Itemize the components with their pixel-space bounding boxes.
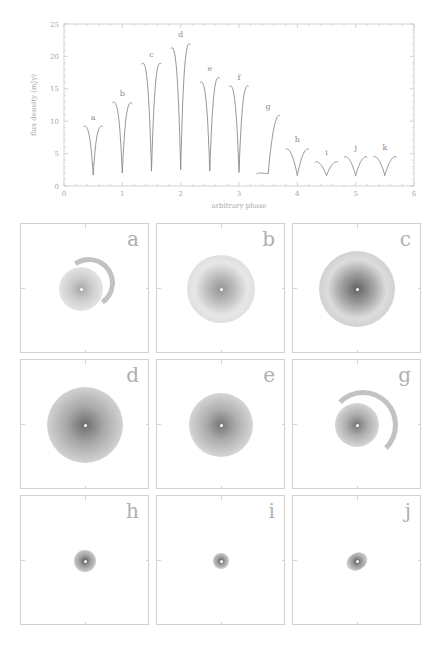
- dip-label-g: g: [266, 102, 271, 111]
- panel-label: g: [398, 365, 411, 385]
- panel-tick: [85, 622, 86, 625]
- panel-label: d: [126, 365, 139, 385]
- image-panel-j: j: [292, 495, 421, 625]
- panel-label: c: [400, 229, 411, 249]
- dip-label-d: d: [178, 30, 183, 39]
- dip-label-i: i: [325, 148, 328, 157]
- x-tick-label: 3: [237, 190, 241, 198]
- panel-tick: [418, 560, 421, 561]
- image-panel-g: g: [292, 359, 421, 489]
- core-point: [356, 288, 359, 291]
- dip-label-k: k: [382, 143, 387, 152]
- panel-tick: [293, 288, 297, 289]
- image-panel-c: c: [292, 223, 421, 353]
- chart-canvas: 01234560510152025arbitrary phaseflux den…: [0, 0, 442, 215]
- panel-tick: [85, 350, 86, 353]
- panel-label: h: [126, 501, 139, 521]
- panel-tick: [357, 496, 358, 500]
- core-point: [84, 424, 87, 427]
- dip-label-h: h: [295, 135, 300, 144]
- dip-curve-d: [171, 44, 191, 170]
- y-tick-label: 15: [50, 85, 59, 93]
- x-tick-label: 6: [412, 190, 417, 198]
- dip-curve-a: [83, 126, 103, 175]
- y-tick-label: 10: [50, 118, 59, 126]
- panel-tick: [221, 224, 222, 228]
- flux-density-chart: 01234560510152025arbitrary phaseflux den…: [0, 0, 442, 215]
- panel-tick: [282, 560, 285, 561]
- dip-curve-j: [344, 157, 367, 176]
- image-panel-e: e: [156, 359, 285, 489]
- panel-tick: [157, 560, 161, 561]
- panel-label: a: [127, 229, 139, 249]
- y-tick-label: 25: [50, 21, 59, 29]
- panel-tick: [221, 486, 222, 489]
- image-panel-grid: a b c d e g h i j: [20, 223, 421, 632]
- panel-tick: [357, 350, 358, 353]
- panel-label: b: [262, 229, 275, 249]
- dip-label-a: a: [91, 113, 96, 122]
- panel-tick: [21, 424, 25, 425]
- dip-curve-f: [229, 86, 249, 173]
- panel-tick: [357, 224, 358, 228]
- dip-curve-g: [257, 116, 280, 175]
- y-tick-label: 0: [55, 183, 59, 191]
- core-point: [84, 560, 87, 563]
- image-panel-a: a: [20, 223, 149, 353]
- core-point: [356, 560, 359, 563]
- dip-curve-h: [286, 149, 309, 176]
- image-panel-i: i: [156, 495, 285, 625]
- panel-tick: [85, 486, 86, 489]
- dip-label-b: b: [120, 89, 125, 98]
- panel-tick: [21, 560, 25, 561]
- panel-tick: [293, 560, 297, 561]
- panel-label: j: [405, 501, 411, 521]
- panel-tick: [282, 288, 285, 289]
- dip-label-f: f: [238, 73, 242, 82]
- dip-curve-e: [200, 77, 220, 171]
- dip-curve-c: [142, 63, 162, 171]
- panel-tick: [357, 360, 358, 364]
- dip-label-c: c: [149, 50, 154, 59]
- panel-tick: [85, 360, 86, 364]
- dip-label-j: j: [353, 143, 356, 152]
- y-tick-label: 5: [55, 150, 59, 158]
- core-point: [220, 424, 223, 427]
- x-tick-label: 1: [120, 190, 124, 198]
- panel-tick: [146, 288, 149, 289]
- panel-tick: [157, 424, 161, 425]
- x-axis-label: arbitrary phase: [212, 202, 267, 210]
- panel-tick: [221, 496, 222, 500]
- panel-label: i: [269, 501, 275, 521]
- image-panel-b: b: [156, 223, 285, 353]
- panel-tick: [293, 424, 297, 425]
- x-tick-label: 0: [62, 190, 66, 198]
- dip-label-e: e: [207, 64, 212, 73]
- panel-tick: [221, 360, 222, 364]
- panel-tick: [282, 424, 285, 425]
- dip-curve-k: [373, 157, 396, 176]
- panel-tick: [418, 424, 421, 425]
- y-tick-label: 20: [50, 53, 59, 61]
- panel-label: e: [263, 365, 275, 385]
- panel-tick: [357, 622, 358, 625]
- panel-tick: [85, 496, 86, 500]
- image-panel-d: d: [20, 359, 149, 489]
- panel-tick: [21, 288, 25, 289]
- panel-tick: [221, 622, 222, 625]
- dip-curve-b: [112, 102, 132, 173]
- core-point: [220, 560, 223, 563]
- x-tick-label: 2: [178, 190, 182, 198]
- image-panel-h: h: [20, 495, 149, 625]
- panel-tick: [418, 288, 421, 289]
- panel-tick: [85, 224, 86, 228]
- panel-tick: [357, 486, 358, 489]
- core-point: [80, 288, 83, 291]
- dip-curve-i: [315, 162, 338, 176]
- y-axis-label: flux density (mJy): [30, 74, 38, 136]
- core-point: [356, 424, 359, 427]
- panel-tick: [146, 560, 149, 561]
- panel-tick: [221, 350, 222, 353]
- x-tick-label: 5: [353, 190, 357, 198]
- panel-tick: [146, 424, 149, 425]
